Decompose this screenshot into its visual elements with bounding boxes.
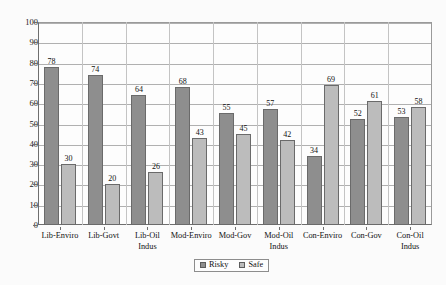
x-axis-category-label: Con-Oil Indus	[388, 231, 432, 252]
bar-value-label: 57	[257, 100, 283, 108]
category-separator	[257, 22, 258, 225]
bars-layer: 783074206426684355455742346952615358	[38, 22, 432, 225]
bar-safe-2	[148, 172, 163, 225]
category-separator	[388, 22, 389, 225]
bar-value-label: 68	[170, 78, 196, 86]
category-separator	[213, 22, 214, 225]
bar-value-label: 45	[231, 125, 257, 133]
x-axis-tick-mark	[279, 227, 280, 230]
bar-safe-1	[105, 184, 120, 225]
bar-value-label: 42	[274, 131, 300, 139]
legend-swatch-risky	[200, 262, 206, 268]
x-axis-category-label: Mod-Enviro	[169, 231, 213, 242]
x-axis: Lib-EnviroLib-GovtLib-Oil IndusMod-Envir…	[38, 227, 432, 261]
bar-safe-0	[61, 164, 76, 225]
bar-value-label: 26	[143, 163, 169, 171]
bar-value-label: 64	[126, 86, 152, 94]
bar-value-label: 20	[99, 175, 125, 183]
bar-value-label: 61	[362, 92, 388, 100]
category-separator	[344, 22, 345, 225]
x-axis-category-label: Mod-Oil Indus	[257, 231, 301, 252]
legend: RiskySafe	[194, 259, 269, 272]
bar-safe-8	[411, 107, 426, 225]
bar-chart: 1009080706050403020100 78307420642668435…	[0, 0, 446, 285]
legend-item-risky: Risky	[200, 261, 228, 269]
x-axis-category-label: Con-Gov	[344, 231, 388, 242]
legend-label: Safe	[248, 261, 263, 269]
bar-value-label: 74	[82, 66, 108, 74]
category-separator	[82, 22, 83, 225]
category-separator	[126, 22, 127, 225]
bar-value-label: 30	[55, 155, 81, 163]
bar-safe-5	[280, 140, 295, 225]
x-axis-tick-mark	[323, 227, 324, 230]
bar-safe-6	[324, 85, 339, 225]
category-separator	[169, 22, 170, 225]
bar-safe-7	[367, 101, 382, 225]
x-axis-tick-mark	[191, 227, 192, 230]
x-axis-tick-mark	[410, 227, 411, 230]
bar-risky-8	[394, 117, 409, 225]
bar-risky-6	[307, 156, 322, 225]
x-axis-tick-mark	[366, 227, 367, 230]
x-axis-category-label: Mod-Gov	[213, 231, 257, 242]
bar-value-label: 43	[187, 129, 213, 137]
bar-value-label: 58	[406, 98, 432, 106]
category-separator	[301, 22, 302, 225]
bar-risky-2	[131, 95, 146, 225]
x-axis-category-label: Lib-Enviro	[38, 231, 82, 242]
bar-value-label: 55	[214, 104, 240, 112]
x-axis-category-label: Con-Enviro	[301, 231, 345, 242]
bar-risky-1	[88, 75, 103, 225]
bar-safe-3	[192, 138, 207, 225]
x-axis-tick-mark	[60, 227, 61, 230]
x-axis-category-label: Lib-Govt	[82, 231, 126, 242]
legend-item-safe: Safe	[239, 261, 263, 269]
bar-risky-5	[263, 109, 278, 225]
x-axis-tick-mark	[147, 227, 148, 230]
x-axis-category-label: Lib-Oil Indus	[126, 231, 170, 252]
bar-value-label: 69	[318, 76, 344, 84]
bar-risky-7	[350, 119, 365, 225]
bar-risky-0	[44, 67, 59, 225]
x-axis-tick-mark	[104, 227, 105, 230]
bar-risky-3	[175, 87, 190, 225]
y-axis-tick-mark	[33, 225, 38, 226]
y-axis: 1009080706050403020100	[0, 22, 38, 225]
legend-label: Risky	[209, 261, 228, 269]
bar-value-label: 78	[38, 58, 64, 66]
bar-safe-4	[236, 134, 251, 225]
x-axis-tick-mark	[235, 227, 236, 230]
legend-swatch-safe	[239, 262, 245, 268]
